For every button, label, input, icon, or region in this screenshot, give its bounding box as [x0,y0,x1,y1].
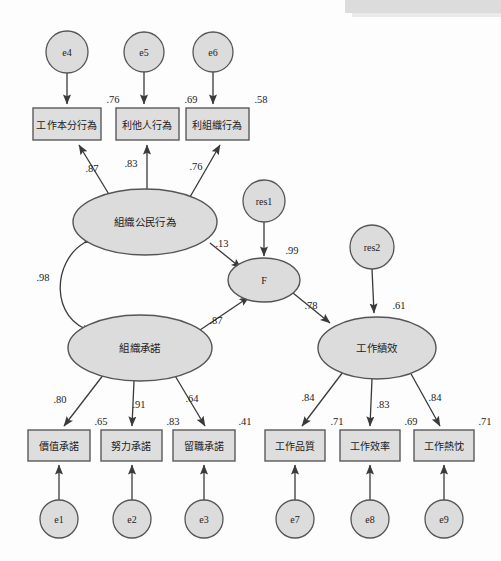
observed-node-v7: 工作品質 [265,430,325,461]
error-node-e4: e4 [46,31,88,73]
error-node-e1: e1 [40,500,78,538]
latent-node-f: F [228,258,300,302]
coefficient-ocb-to-f: .13 [215,238,228,249]
coefficient-commitment-to-v3: .64 [185,393,199,404]
error-label-e4: e4 [62,47,71,58]
residual-label-res2: res2 [364,242,381,253]
latent-label-commitment: 組織承諾 [119,342,161,354]
error-node-e5: e5 [124,32,164,72]
coefficient-ocb-to-v6: .76 [189,161,202,172]
error-label-e3: e3 [199,514,208,525]
error-label-e2: e2 [127,514,136,525]
error-label-e1: e1 [54,514,63,525]
edge-ocb-commitment-covariance [60,243,92,331]
r2-label-v2: .83 [166,416,179,427]
latent-node-performance: 工作績效 [318,317,436,379]
latent-node-ocb: 組織公民行為 [73,189,217,255]
error-node-e3: e3 [185,500,223,538]
edge-performance-to-v8 [370,379,372,426]
r2-label-v7: .71 [330,416,343,427]
error-node-e7: e7 [276,500,314,538]
observed-label-v4: 工作本分行為 [36,119,97,131]
coefficient-res1-to-f: .99 [285,245,298,256]
error-label-e9: e9 [439,514,448,525]
edge-res2-to-performance [372,269,374,313]
error-label-e7: e7 [290,514,299,525]
latent-node-commitment: 組織承諾 [68,315,212,381]
observed-label-v2: 努力承諾 [111,440,152,452]
observed-label-v1: 價值承諾 [39,440,80,452]
observed-node-v1: 價值承諾 [28,430,90,461]
r2-label-v1: .65 [94,416,107,427]
coefficient-commitment-to-f: .87 [209,315,222,326]
r2-label-v3: .41 [238,416,251,427]
observed-node-v4: 工作本分行為 [33,108,101,140]
observed-label-v6: 利組織行為 [192,119,243,131]
observed-node-v5: 利他人行為 [116,108,179,140]
coefficient-f-to-performance: .78 [304,300,317,311]
observed-label-v8: 工作效率 [350,440,391,452]
residual-node-res2: res2 [350,225,394,269]
observed-node-v8: 工作效率 [340,430,400,461]
error-label-e6: e6 [208,47,217,58]
coefficient-commitment-to-v1: .80 [53,394,66,405]
observed-label-v3: 留職承諾 [184,440,225,452]
r2-label-v5: .69 [184,94,197,105]
coefficient-performance-to-v9: .84 [428,392,442,403]
coefficient-ocb-commitment-covariance: .98 [36,272,49,283]
residual-label-res1: res1 [256,196,273,207]
observed-label-v7: 工作品質 [275,440,316,452]
edge-commitment-to-f [200,297,249,330]
observed-label-v5: 利他人行為 [122,119,173,131]
latent-label-f: F [261,275,267,286]
r2-label-v8: .69 [404,416,417,427]
diagram-canvas: e4 e5 e6 工作本分行為 利他人行為 利組織行為 組織公民行為 [0,0,501,561]
latent-label-performance: 工作績效 [356,342,398,354]
latent-label-ocb: 組織公民行為 [114,216,176,228]
error-node-e8: e8 [351,500,389,538]
error-label-e5: e5 [139,47,148,58]
coefficient-commitment-to-v2: .91 [132,399,145,410]
r2-label-v4: .76 [106,94,119,105]
error-node-e6: e6 [193,32,233,72]
coefficient-res2-to-performance: .61 [392,300,405,311]
r2-label-v9: .71 [478,416,491,427]
coefficient-performance-to-v7: .84 [301,392,315,403]
error-node-e2: e2 [113,500,151,538]
observed-node-v6: 利組織行為 [186,108,249,140]
sem-path-diagram: e4 e5 e6 工作本分行為 利他人行為 利組織行為 組織公民行為 [0,0,501,561]
observed-label-v9: 工作熱忱 [424,440,465,452]
coefficient-performance-to-v8: .83 [376,399,389,410]
r2-label-v6: .58 [254,94,267,105]
error-node-e9: e9 [425,500,463,538]
observed-node-v9: 工作熱忱 [414,430,474,461]
observed-node-v2: 努力承諾 [101,430,162,461]
error-label-e8: e8 [365,514,374,525]
coefficient-ocb-to-v5: .83 [124,158,137,169]
residual-node-res1: res1 [243,180,285,222]
coefficient-ocb-to-v4: .87 [85,163,98,174]
observed-node-v3: 留職承諾 [173,430,235,461]
